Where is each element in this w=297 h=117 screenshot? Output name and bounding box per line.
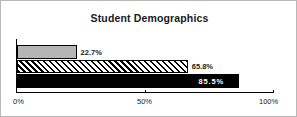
bar-series-2 bbox=[17, 60, 188, 73]
x-axis-tick-50 bbox=[145, 90, 146, 93]
bar-value-label-3: 85.5% bbox=[199, 78, 224, 86]
bar-value-label-1: 22.7% bbox=[81, 49, 102, 57]
x-axis-label-0: 0% bbox=[13, 97, 24, 106]
x-axis-label-50: 50% bbox=[137, 97, 152, 106]
chart-container: Student Demographics 22.7% 65.8% 85.5% 0… bbox=[0, 0, 297, 117]
x-axis-label-100: 100% bbox=[259, 97, 278, 106]
x-axis-tick-100 bbox=[273, 90, 274, 93]
x-axis-tick-0 bbox=[16, 90, 17, 93]
chart-title: Student Demographics bbox=[1, 12, 297, 24]
plot-area: 22.7% 65.8% 85.5% bbox=[16, 39, 274, 93]
bar-series-1 bbox=[17, 45, 77, 59]
bar-value-label-2: 65.8% bbox=[192, 63, 213, 71]
